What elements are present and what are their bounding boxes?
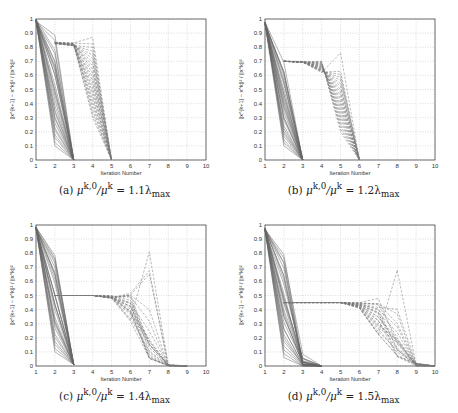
svg-text:1: 1 (263, 369, 267, 375)
svg-text:0.9: 0.9 (25, 236, 34, 242)
svg-text:5: 5 (339, 163, 343, 169)
svg-text:||x^{k+1} − x^k||² / ||x^k||²: ||x^{k+1} − x^k||² / ||x^k||² (238, 265, 244, 325)
svg-text:0.7: 0.7 (254, 264, 263, 270)
svg-text:7: 7 (148, 369, 152, 375)
svg-text:0: 0 (30, 157, 34, 163)
svg-text:0.9: 0.9 (254, 236, 263, 242)
svg-text:3: 3 (72, 369, 76, 375)
svg-text:0.2: 0.2 (254, 129, 263, 135)
svg-text:0.4: 0.4 (25, 307, 34, 313)
svg-text:4: 4 (91, 163, 95, 169)
svg-text:8: 8 (396, 163, 400, 169)
svg-text:2: 2 (53, 369, 57, 375)
svg-text:6: 6 (129, 163, 133, 169)
svg-text:2: 2 (282, 369, 286, 375)
svg-text:0.4: 0.4 (254, 101, 263, 107)
svg-text:0: 0 (259, 157, 263, 163)
svg-text:||x^{k+1} − x^k||² / ||x^k||²: ||x^{k+1} − x^k||² / ||x^k||² (9, 265, 15, 325)
svg-text:0.1: 0.1 (254, 143, 263, 149)
svg-text:10: 10 (203, 369, 210, 375)
svg-text:0.8: 0.8 (254, 250, 263, 256)
svg-text:10: 10 (203, 163, 210, 169)
panel-a: 1234567891000.10.20.30.40.50.60.70.80.91… (0, 0, 229, 206)
svg-text:9: 9 (414, 369, 418, 375)
svg-text:10: 10 (432, 369, 439, 375)
svg-text:Iteration Number: Iteration Number (101, 170, 142, 176)
svg-text:8: 8 (396, 369, 400, 375)
chart-a: 1234567891000.10.20.30.40.50.60.70.80.91… (0, 0, 229, 180)
svg-text:0.5: 0.5 (254, 293, 263, 299)
svg-text:0.6: 0.6 (25, 72, 34, 78)
svg-text:0.9: 0.9 (254, 30, 263, 36)
svg-text:0.5: 0.5 (254, 87, 263, 93)
chart-d: 1234567891000.10.20.30.40.50.60.70.80.91… (229, 206, 458, 386)
svg-text:||x^{k+1} − x^k||² / ||x^k||²: ||x^{k+1} − x^k||² / ||x^k||² (238, 59, 244, 119)
svg-text:||x^{k+1} − x^k||² / ||x^k||²: ||x^{k+1} − x^k||² / ||x^k||² (9, 59, 15, 119)
svg-text:1: 1 (34, 369, 38, 375)
svg-text:0.7: 0.7 (25, 58, 34, 64)
panel-c: 1234567891000.10.20.30.40.50.60.70.80.91… (0, 206, 229, 412)
svg-text:Iteration Number: Iteration Number (330, 170, 371, 176)
svg-text:0.6: 0.6 (254, 72, 263, 78)
svg-text:0.6: 0.6 (254, 278, 263, 284)
svg-text:7: 7 (148, 163, 152, 169)
caption-d: (d) μk,0/μk = 1.5λmax (229, 387, 458, 405)
svg-text:5: 5 (339, 369, 343, 375)
svg-text:0.8: 0.8 (25, 250, 34, 256)
caption-c: (c) μk,0/μk = 1.4λmax (0, 387, 229, 405)
svg-text:0.3: 0.3 (25, 321, 34, 327)
svg-text:0.7: 0.7 (254, 58, 263, 64)
svg-text:10: 10 (432, 163, 439, 169)
svg-text:4: 4 (320, 369, 324, 375)
svg-text:0.4: 0.4 (254, 307, 263, 313)
svg-text:2: 2 (282, 163, 286, 169)
chart-b: 1234567891000.10.20.30.40.50.60.70.80.91… (229, 0, 458, 180)
svg-text:4: 4 (91, 369, 95, 375)
svg-text:5: 5 (110, 369, 114, 375)
svg-text:0.2: 0.2 (254, 335, 263, 341)
caption-a: (a) μk,0/μk = 1.1λmax (0, 181, 229, 199)
svg-text:Iteration Number: Iteration Number (101, 376, 142, 382)
svg-text:0.2: 0.2 (25, 129, 34, 135)
svg-text:3: 3 (301, 369, 305, 375)
svg-text:0.9: 0.9 (25, 30, 34, 36)
svg-text:6: 6 (358, 369, 362, 375)
panel-b: 1234567891000.10.20.30.40.50.60.70.80.91… (229, 0, 458, 206)
svg-text:6: 6 (358, 163, 362, 169)
svg-text:1: 1 (30, 16, 34, 22)
svg-text:0.1: 0.1 (25, 143, 34, 149)
svg-text:3: 3 (72, 163, 76, 169)
svg-text:0.5: 0.5 (25, 87, 34, 93)
svg-text:9: 9 (185, 163, 189, 169)
svg-text:6: 6 (129, 369, 133, 375)
panel-d: 1234567891000.10.20.30.40.50.60.70.80.91… (229, 206, 458, 412)
svg-text:0.2: 0.2 (25, 335, 34, 341)
svg-text:7: 7 (377, 369, 381, 375)
caption-b: (b) μk,0/μk = 1.2λmax (229, 181, 458, 199)
svg-text:1: 1 (263, 163, 267, 169)
svg-text:3: 3 (301, 163, 305, 169)
svg-text:1: 1 (34, 163, 38, 169)
svg-text:0.3: 0.3 (254, 115, 263, 121)
svg-text:7: 7 (377, 163, 381, 169)
svg-text:Iteration Number: Iteration Number (330, 376, 371, 382)
svg-text:0.5: 0.5 (25, 293, 34, 299)
svg-text:0: 0 (30, 363, 34, 369)
svg-text:4: 4 (320, 163, 324, 169)
svg-text:0: 0 (259, 363, 263, 369)
svg-text:8: 8 (167, 163, 171, 169)
svg-text:8: 8 (167, 369, 171, 375)
svg-text:1: 1 (259, 16, 263, 22)
svg-text:0.6: 0.6 (25, 278, 34, 284)
svg-text:1: 1 (259, 222, 263, 228)
svg-text:0.3: 0.3 (25, 115, 34, 121)
svg-text:0.3: 0.3 (254, 321, 263, 327)
svg-text:0.7: 0.7 (25, 264, 34, 270)
svg-text:5: 5 (110, 163, 114, 169)
svg-text:2: 2 (53, 163, 57, 169)
chart-c: 1234567891000.10.20.30.40.50.60.70.80.91… (0, 206, 229, 386)
svg-text:1: 1 (30, 222, 34, 228)
svg-text:9: 9 (185, 369, 189, 375)
svg-text:0.8: 0.8 (25, 44, 34, 50)
svg-text:0.1: 0.1 (254, 349, 263, 355)
